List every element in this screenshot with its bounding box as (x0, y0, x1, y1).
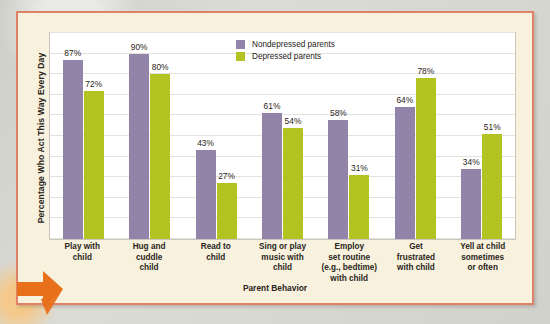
bar-depressed: 80% (150, 74, 170, 239)
bar-pair: 43%27% (196, 33, 237, 239)
bar-value-label: 90% (131, 42, 148, 52)
bar-value-label: 78% (417, 66, 434, 76)
bar-nondepressed: 64% (395, 107, 415, 239)
x-tick-label: Hug andcuddlechild (116, 242, 183, 288)
bar-group: 87%72% (50, 33, 116, 239)
legend-swatch-depressed-icon (236, 52, 245, 61)
x-tick-label: Employset routine(e.g., bedtime)with chi… (316, 242, 383, 288)
bar-value-label: 54% (285, 116, 302, 126)
bar-value-label: 27% (218, 171, 235, 181)
bar-value-label: 64% (396, 95, 413, 105)
bar-pair: 90%80% (129, 33, 170, 239)
bar-value-label: 58% (330, 108, 347, 118)
bar-depressed: 78% (416, 78, 436, 239)
bar-depressed: 31% (349, 175, 369, 239)
figure-panel: Percentage Who Act This Way Every Day No… (16, 11, 534, 305)
y-axis-label: Percentage Who Act This Way Every Day (32, 27, 50, 249)
x-tick-label: Yell at childsometimesor often (449, 242, 516, 288)
plot-area: Nondepressed parents Depressed parents 8… (49, 32, 516, 240)
bar-depressed: 54% (283, 128, 303, 239)
legend-swatch-nondepressed-icon (236, 40, 245, 49)
legend-item-nondepressed: Nondepressed parents (236, 40, 335, 49)
bar-nondepressed: 90% (129, 54, 149, 239)
bar-depressed: 72% (84, 91, 104, 239)
x-axis-label: Parent Behavior (18, 283, 532, 293)
bar-value-label: 72% (85, 79, 102, 89)
bar-pair: 34%51% (461, 33, 502, 239)
bar-value-label: 61% (264, 101, 281, 111)
x-tick-label: Getfrustratedwith child (383, 242, 450, 288)
bar-value-label: 80% (152, 62, 169, 72)
bar-nondepressed: 34% (461, 169, 481, 239)
bar-value-label: 51% (484, 122, 501, 132)
y-axis-label-text: Percentage Who Act This Way Every Day (36, 53, 46, 224)
bar-nondepressed: 58% (328, 120, 348, 239)
legend-label-nondepressed: Nondepressed parents (252, 40, 335, 49)
bar-nondepressed: 43% (196, 150, 216, 239)
bar-value-label: 43% (197, 138, 214, 148)
bar-group: 64%78% (382, 33, 448, 239)
bar-depressed: 51% (482, 134, 502, 239)
chart-legend: Nondepressed parents Depressed parents (236, 40, 335, 64)
bar-group: 34%51% (449, 33, 515, 239)
x-axis-tick-labels: Play withchildHug andcuddlechildRead toc… (49, 242, 516, 288)
bar-pair: 87%72% (63, 33, 104, 239)
legend-label-depressed: Depressed parents (252, 52, 321, 61)
bar-nondepressed: 87% (63, 60, 83, 239)
bar-pair: 64%78% (395, 33, 436, 239)
bar-value-label: 34% (463, 157, 480, 167)
bar-value-label: 87% (64, 48, 81, 58)
bar-depressed: 27% (217, 183, 237, 239)
bar-group: 90%80% (116, 33, 182, 239)
x-tick-label: Play withchild (49, 242, 116, 288)
bar-nondepressed: 61% (262, 113, 282, 239)
x-tick-label: Sing or playmusic withchild (249, 242, 316, 288)
figure-panel-inner: Percentage Who Act This Way Every Day No… (18, 13, 532, 303)
x-tick-label: Read tochild (182, 242, 249, 288)
legend-item-depressed: Depressed parents (236, 52, 335, 61)
bar-value-label: 31% (351, 163, 368, 173)
